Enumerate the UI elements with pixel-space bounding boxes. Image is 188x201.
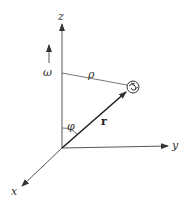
omega-label: ω bbox=[43, 66, 52, 79]
particle bbox=[127, 81, 139, 93]
x-axis bbox=[22, 148, 62, 186]
y-axis-label: y bbox=[171, 139, 179, 152]
diagram-svg: z y x ω ρ r φ bbox=[0, 0, 188, 201]
rotation-diagram: z y x ω ρ r φ bbox=[0, 0, 188, 201]
rho-label: ρ bbox=[87, 68, 95, 81]
phi-label: φ bbox=[67, 120, 75, 133]
y-axis bbox=[62, 146, 168, 148]
x-axis-label: x bbox=[11, 185, 18, 198]
z-axis-label: z bbox=[57, 10, 64, 23]
r-vector-label: r bbox=[101, 115, 107, 128]
rho-line bbox=[62, 73, 127, 85]
